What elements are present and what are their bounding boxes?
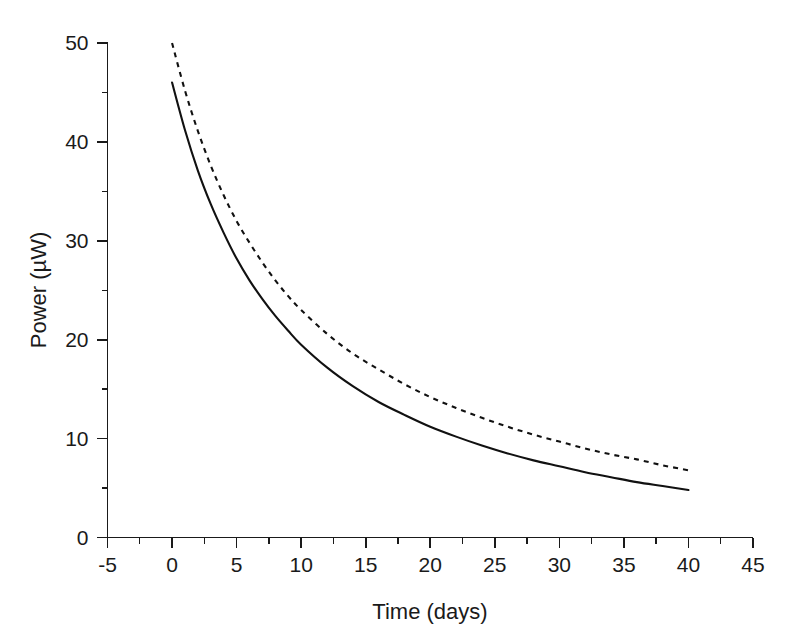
x-tick-label: 20 [419, 553, 442, 576]
chart-figure: -505101520253035404501020304050 Time (da… [0, 0, 787, 640]
y-tick-label: 30 [65, 229, 88, 252]
x-tick-label: 35 [612, 553, 635, 576]
x-tick-label: 25 [483, 553, 506, 576]
series-dashed-curve [172, 43, 688, 470]
y-tick-label: 20 [65, 328, 88, 351]
y-tick-label: 50 [65, 31, 88, 54]
y-tick-label: 10 [65, 427, 88, 450]
x-tick-label: 30 [548, 553, 571, 576]
x-tick-label: 40 [677, 553, 700, 576]
data-series [172, 43, 688, 490]
x-tick-label: 5 [231, 553, 243, 576]
axis-labels: -505101520253035404501020304050 [65, 31, 765, 576]
chart-canvas: -505101520253035404501020304050 Time (da… [0, 0, 787, 640]
y-tick-label: 0 [77, 526, 89, 549]
x-tick-label: 10 [289, 553, 312, 576]
x-axis-title: Time (days) [372, 599, 487, 624]
x-tick-label: 15 [354, 553, 377, 576]
axis-ticks [97, 43, 754, 548]
x-tick-label: -5 [98, 553, 117, 576]
series-solid-curve [172, 83, 688, 490]
x-tick-label: 0 [166, 553, 178, 576]
y-tick-label: 40 [65, 130, 88, 153]
y-axis-title: Power (µW) [26, 232, 51, 349]
x-tick-label: 45 [741, 553, 764, 576]
